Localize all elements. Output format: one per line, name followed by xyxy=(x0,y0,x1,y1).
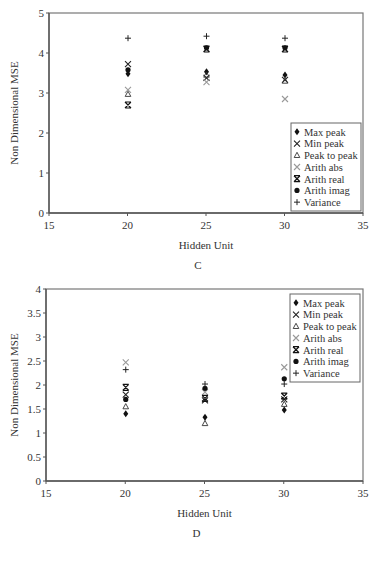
legend: Max peakMin peakPeak to peakArith absAri… xyxy=(291,123,361,211)
x-tick-label: 30 xyxy=(279,219,291,231)
y-tick-label: 0 xyxy=(39,207,45,219)
x-tick-label: 20 xyxy=(120,487,132,499)
legend-label-variance: Variance xyxy=(303,368,340,379)
legend-label-arith-real: Arith real xyxy=(303,345,344,356)
legend-label-peak-to-peak: Peak to peak xyxy=(304,150,358,161)
y-tick-label: 3.5 xyxy=(27,307,41,319)
x-tick-label: 35 xyxy=(358,487,370,499)
arith-imag-marker xyxy=(293,359,298,364)
y-axis-label: Non Dimensional MSE xyxy=(8,333,20,437)
legend-label-variance: Variance xyxy=(304,197,341,208)
arith-imag-marker xyxy=(125,67,130,72)
y-tick-label: 0 xyxy=(36,475,42,487)
chart-d-plot: 00.511.522.533.541520253035Hidden UnitNo… xyxy=(0,282,382,564)
y-tick-label: 1 xyxy=(39,167,45,179)
x-tick-label: 30 xyxy=(278,487,290,499)
panel-label: C xyxy=(194,259,201,271)
y-tick-label: 1.5 xyxy=(27,403,41,415)
x-tick-label: 25 xyxy=(199,487,211,499)
legend-label-arith-abs: Arith abs xyxy=(304,162,343,173)
arith-imag-marker xyxy=(282,376,287,381)
legend-label-max-peak: Max peak xyxy=(304,127,346,138)
arith-imag-marker xyxy=(282,45,287,50)
legend: Max peakMin peakPeak to peakArith absAri… xyxy=(290,294,360,382)
y-tick-labels: 012345 xyxy=(39,7,50,219)
x-tick-labels: 1520253035 xyxy=(44,213,370,231)
y-tick-label: 0.5 xyxy=(27,451,41,463)
y-axis-label: Non Dimensional MSE xyxy=(8,61,20,165)
y-tick-label: 2 xyxy=(36,379,42,391)
panel-label: D xyxy=(193,527,201,539)
legend-label-min-peak: Min peak xyxy=(304,138,345,149)
legend-label-arith-imag: Arith imag xyxy=(304,185,351,196)
x-axis-label: Hidden Unit xyxy=(177,507,232,519)
chart-c-plot: 0123451520253035Hidden UnitNon Dimension… xyxy=(0,0,382,282)
x-tick-label: 35 xyxy=(358,219,370,231)
x-tick-labels: 1520253035 xyxy=(41,481,370,499)
y-tick-label: 4 xyxy=(36,283,42,295)
chart-c: 0123451520253035Hidden UnitNon Dimension… xyxy=(0,0,382,282)
y-tick-label: 5 xyxy=(39,7,45,19)
arith-imag-marker xyxy=(123,397,128,402)
arith-imag-marker xyxy=(204,45,209,50)
y-tick-label: 3 xyxy=(39,87,45,99)
chart-d: 00.511.522.533.541520253035Hidden UnitNo… xyxy=(0,282,382,564)
legend-label-peak-to-peak: Peak to peak xyxy=(303,321,357,332)
x-axis-label: Hidden Unit xyxy=(179,239,234,251)
y-tick-label: 4 xyxy=(39,47,45,59)
y-tick-labels: 00.511.522.533.54 xyxy=(27,283,46,487)
x-tick-label: 25 xyxy=(201,219,213,231)
y-tick-label: 2.5 xyxy=(27,355,41,367)
x-tick-label: 15 xyxy=(44,219,56,231)
y-tick-label: 1 xyxy=(36,427,42,439)
x-tick-label: 15 xyxy=(41,487,53,499)
legend-label-arith-imag: Arith imag xyxy=(303,356,350,367)
legend-label-arith-abs: Arith abs xyxy=(303,333,342,344)
y-tick-label: 2 xyxy=(39,127,45,139)
arith-imag-marker xyxy=(294,188,299,193)
x-tick-label: 20 xyxy=(122,219,134,231)
legend-label-min-peak: Min peak xyxy=(303,309,344,320)
y-tick-label: 3 xyxy=(36,331,42,343)
legend-label-max-peak: Max peak xyxy=(303,298,345,309)
legend-label-arith-real: Arith real xyxy=(304,174,345,185)
